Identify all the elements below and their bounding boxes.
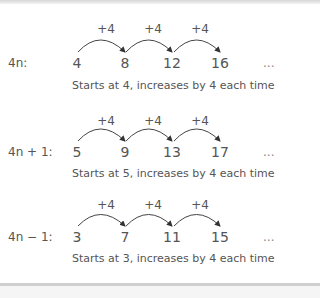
sequence-label: 4n − 1: — [8, 230, 53, 244]
term: 9 — [121, 144, 130, 160]
term: 13 — [163, 144, 181, 160]
ellipsis: ... — [263, 56, 274, 70]
term: 17 — [211, 144, 229, 160]
sequence-description: Starts at 4, increases by 4 each time — [72, 79, 275, 92]
term: 7 — [121, 229, 130, 245]
term: 15 — [211, 229, 229, 245]
arrow-arcs-icon — [0, 0, 320, 90]
sequence-description: Starts at 5, increases by 4 each time — [72, 167, 275, 180]
sequence-description: Starts at 3, increases by 4 each time — [72, 252, 275, 265]
term: 16 — [211, 55, 229, 71]
sequence-4n-minus-1: +4 +4 +4 4n − 1: 3 7 11 15 ... Starts at… — [0, 188, 320, 278]
sequence-4n-plus-1: +4 +4 +4 4n + 1: 5 9 13 17 ... Starts at… — [0, 95, 320, 185]
page-below — [0, 286, 320, 298]
sequence-label: 4n: — [8, 56, 27, 70]
term: 3 — [73, 229, 82, 245]
sequence-4n: +4 +4 +4 4n: 4 8 12 16 ... Starts at 4, … — [0, 0, 320, 90]
ellipsis: ... — [263, 230, 274, 244]
term: 5 — [73, 144, 82, 160]
term: 8 — [121, 55, 130, 71]
term: 11 — [163, 229, 181, 245]
ellipsis: ... — [263, 145, 274, 159]
term: 12 — [163, 55, 181, 71]
sequence-label: 4n + 1: — [8, 145, 53, 159]
term: 4 — [73, 55, 82, 71]
